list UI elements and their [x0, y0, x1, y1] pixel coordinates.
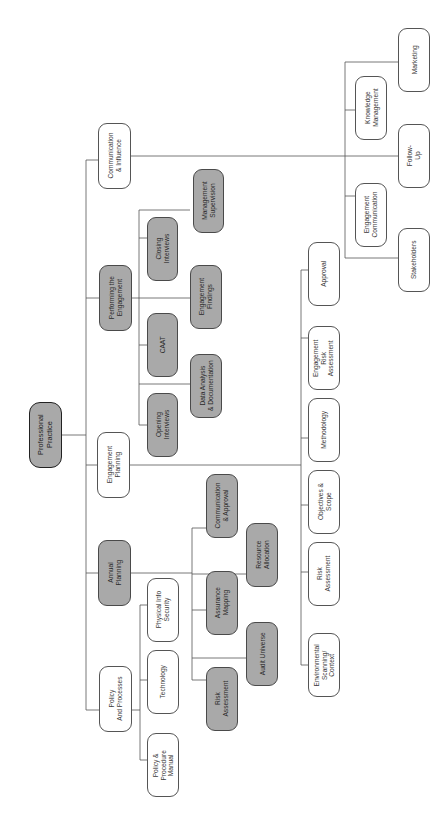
node-label: Professional Practice — [37, 415, 54, 456]
node-annual-planning[interactable]: Annual Planning — [98, 540, 131, 606]
node-label: Engagement Risk Assessment — [313, 339, 336, 376]
node-management-supervision[interactable]: Management Supervision — [193, 169, 224, 233]
node-closing-interviews[interactable]: Closing Interviews — [147, 217, 178, 281]
org-chart-diagram: Professional Practice Communication & In… — [0, 0, 442, 837]
node-professional-practice[interactable]: Professional Practice — [29, 402, 62, 468]
node-ep-risk-assessment[interactable]: Risk Assessment — [308, 542, 340, 606]
node-data-analysis-documentation[interactable]: Data Analysis & Documentation — [190, 354, 222, 418]
node-label: Communication & Influence — [107, 133, 122, 179]
node-policy-processes[interactable]: Policy And Processes — [99, 666, 132, 732]
node-label: Methodology — [320, 411, 328, 449]
node-caat[interactable]: CAAT — [147, 313, 178, 377]
node-engagement-planning[interactable]: Engagement Planning — [97, 432, 130, 498]
node-approval[interactable]: Approval — [308, 242, 340, 306]
node-label: Assurance Mapping — [214, 587, 229, 618]
node-audit-universe[interactable]: Audit Universe — [246, 622, 278, 686]
node-marketing[interactable]: Marketing — [398, 28, 430, 92]
node-label: Annual Planning — [107, 560, 122, 586]
node-label: Audit Universe — [258, 633, 266, 676]
node-follow-up[interactable]: Follow- Up — [398, 124, 430, 188]
node-performing-engagement[interactable]: Performing the Engagement — [99, 265, 132, 331]
node-label: Policy And Processes — [108, 677, 123, 721]
node-ap-risk-assessment[interactable]: Risk Assessment — [206, 667, 238, 731]
node-label: Management Supervision — [201, 182, 216, 221]
node-engagement-findings[interactable]: Engagement Findings — [190, 265, 222, 329]
node-policy-procedure-manual[interactable]: Policy & Procedure Manual — [147, 733, 179, 797]
node-stakeholders[interactable]: Stakeholders — [398, 228, 430, 292]
node-label: Policy & Procedure Manual — [152, 750, 175, 780]
node-technology[interactable]: Technology — [147, 650, 179, 714]
node-label: Performing the Engagement — [108, 276, 123, 319]
node-opening-interviews[interactable]: Opening Interviews — [147, 393, 178, 457]
node-communication-influence[interactable]: Communication & Influence — [98, 123, 131, 189]
node-assurance-mapping[interactable]: Assurance Mapping — [206, 571, 238, 635]
node-label: Follow- Up — [406, 145, 421, 166]
node-label: Engagement Communication — [363, 192, 378, 238]
node-label: Opening Interviews — [155, 410, 170, 440]
node-label: Technology — [159, 665, 167, 698]
node-environmental-scanning[interactable]: Environmental Scanning/ Context — [308, 633, 340, 697]
node-label: Environmental Scanning/ Context — [313, 644, 336, 686]
node-engagement-risk-assessment[interactable]: Engagement Risk Assessment — [308, 326, 340, 390]
node-label: Approval — [320, 261, 328, 287]
node-label: CAAT — [159, 336, 167, 353]
node-label: Communication & Approval — [214, 483, 229, 529]
node-methodology[interactable]: Methodology — [308, 398, 340, 462]
node-label: Risk Assessment — [214, 681, 229, 717]
node-label: Objectives & Scope — [316, 483, 331, 520]
node-communication-approval[interactable]: Communication & Approval — [206, 474, 238, 538]
node-label: Marketing — [410, 46, 418, 75]
node-label: Data Analysis & Documentation — [198, 361, 213, 412]
node-label: Risk Assessment — [316, 556, 331, 592]
node-objectives-scope[interactable]: Objectives & Scope — [308, 470, 340, 534]
node-label: Knowledge Management — [363, 89, 378, 128]
node-engagement-communication[interactable]: Engagement Communication — [355, 183, 387, 247]
node-label: Engagement Findings — [198, 278, 213, 315]
node-label: Closing Interviews — [155, 234, 170, 264]
node-knowledge-management[interactable]: Knowledge Management — [355, 76, 387, 140]
node-resource-allocation[interactable]: Resource Allocation — [246, 523, 278, 587]
node-label: Engagement Planning — [106, 446, 121, 483]
node-label: Physical Info Security — [155, 591, 170, 628]
node-label: Stakeholders — [410, 241, 418, 280]
node-label: Resource Allocation — [254, 541, 269, 570]
node-physical-info-security[interactable]: Physical Info Security — [147, 578, 179, 642]
